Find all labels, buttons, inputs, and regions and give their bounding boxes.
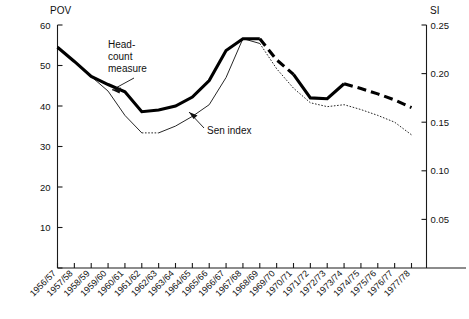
annotation-headcount-line2: count (108, 51, 133, 62)
x-axis (58, 263, 467, 268)
annotation-sen-index: Sen index (189, 112, 251, 136)
right-axis-tick-label: 0.05 (431, 214, 450, 225)
left-axis-title: POV (50, 5, 71, 16)
right-axis-title: SI (430, 5, 439, 16)
right-axis-tick-label: 0.25 (431, 20, 450, 31)
left-axis-tick-label: 60 (40, 20, 51, 31)
right-axis-tick-label: 0.10 (431, 165, 450, 176)
annotation-headcount-line1: Head- (108, 39, 135, 50)
annotation-headcount: Head- count measure (108, 39, 147, 94)
left-axis-tick-label: 30 (40, 141, 51, 152)
left-axis-tick-label: 50 (40, 60, 51, 71)
chart-container: POV SI 102030405060 0.050.100.150.200.25… (0, 0, 469, 319)
series-sen-solid-segment (159, 39, 260, 133)
annotation-headcount-line3: measure (108, 63, 147, 74)
x-axis-tick-labels: 1956/571957/581958/591959/601960/611961/… (28, 268, 412, 298)
series-headcount-dashed-segment (344, 84, 411, 108)
right-axis: 0.050.100.150.200.25 (422, 20, 450, 268)
series-headcount-solid-segment (58, 39, 260, 112)
series-headcount-dashed-segment (260, 39, 294, 75)
annotation-sen-label: Sen index (207, 125, 251, 136)
series-headcount-solid-segment (294, 74, 345, 98)
left-axis: 102030405060 (40, 20, 63, 268)
left-axis-tick-label: 40 (40, 101, 51, 112)
poverty-trend-line-chart: POV SI 102030405060 0.050.100.150.200.25… (0, 0, 469, 319)
left-axis-tick-label: 20 (40, 182, 51, 193)
left-axis-tick-label: 10 (40, 222, 51, 233)
right-axis-tick-label: 0.15 (431, 117, 450, 128)
right-axis-tick-label: 0.20 (431, 68, 450, 79)
annotation-headcount-leader (112, 78, 134, 90)
